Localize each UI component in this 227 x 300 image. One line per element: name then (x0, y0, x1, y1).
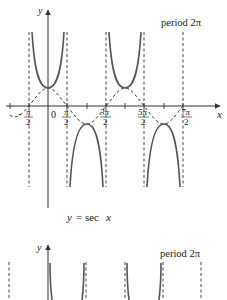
svg-text:2: 2 (26, 117, 31, 127)
svg-text:7π: 7π (181, 107, 191, 117)
svg-text:2: 2 (64, 117, 69, 127)
csc-curves-partial (50, 263, 161, 300)
svg-text:x: x (105, 211, 111, 223)
caption-sec: y = sec x (66, 211, 111, 223)
sec-branch-down-pi (70, 124, 103, 187)
tick-label-5pi-over-2: 5π 2 (138, 107, 149, 127)
svg-text:π: π (64, 107, 69, 117)
svg-text:3π: 3π (99, 107, 110, 117)
tick-label-neg-pi-over-2: - π 2 (18, 107, 33, 127)
secant-graph-figure: y x 0 - π 2 π 2 3π 2 5π 2 7π 2 (0, 0, 227, 300)
y-axis-label: y (37, 5, 43, 16)
tick-label-3pi-over-2: 3π 2 (99, 107, 111, 127)
asymptote-lines-2 (9, 262, 201, 300)
svg-text:2: 2 (184, 117, 189, 127)
period-label-1: period 2π (161, 17, 202, 28)
svg-text:= sec: = sec (76, 211, 99, 223)
svg-text:2: 2 (141, 117, 146, 127)
svg-text:5π: 5π (138, 107, 148, 117)
svg-text:2: 2 (103, 117, 108, 127)
svg-text:y: y (66, 211, 72, 223)
period-label-2: period 2π (160, 248, 201, 259)
svg-text:π: π (26, 107, 31, 117)
y-axis-label-2: y (36, 242, 42, 253)
origin-label: 0 (51, 109, 56, 120)
figure-1: y x 0 - π 2 π 2 3π 2 5π 2 7π 2 (6, 5, 222, 223)
figure-2: y period 2π (9, 242, 201, 300)
sec-branch-down-3pi (147, 124, 180, 187)
tick-label-pi-over-2: π 2 (62, 107, 71, 127)
sec-branch-up-2pi (109, 32, 141, 88)
svg-text:-: - (18, 108, 21, 119)
x-axis-label: x (216, 108, 222, 120)
tick-label-7pi-over-2: 7π 2 (181, 107, 192, 127)
